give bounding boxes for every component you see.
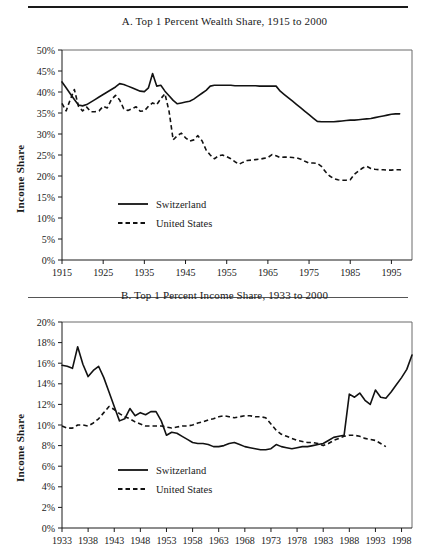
y-tick-label: 2% (42, 502, 55, 513)
x-tick-label: 1915 (52, 267, 72, 276)
y-tick-label: 0% (42, 523, 55, 534)
y-tick-label: 25% (37, 150, 55, 161)
panel-b-y-axis-label: Income Share (14, 414, 26, 482)
legend-label-united-states: United States (156, 218, 212, 229)
x-tick-label: 1973 (261, 535, 281, 546)
legend-label-switzerland: Switzerland (156, 199, 207, 210)
y-tick-label: 4% (42, 481, 55, 492)
panel-a: A. Top 1 Percent Wealth Share, 1915 to 2… (0, 14, 431, 284)
figure-page: A. Top 1 Percent Wealth Share, 1915 to 2… (0, 0, 431, 554)
x-tick-label: 1948 (130, 535, 150, 546)
x-tick-label: 1925 (93, 267, 113, 276)
x-tick-label: 1978 (287, 535, 307, 546)
y-tick-label: 50% (37, 45, 55, 56)
panel-b-chart: 0%2%4%6%8%10%12%14%16%18%20%193319381943… (0, 302, 431, 547)
y-tick-label: 18% (37, 337, 55, 348)
top-horizontal-rule (28, 6, 408, 8)
y-tick-label: 35% (37, 108, 55, 119)
x-tick-label: 1995 (381, 267, 401, 276)
panel-a-y-axis-label: Income Share (14, 145, 26, 213)
y-tick-label: 14% (37, 378, 55, 389)
x-tick-label: 1955 (217, 267, 237, 276)
x-tick-label: 1963 (209, 535, 229, 546)
panel-b: B. Top 1 Percent Income Share, 1933 to 2… (0, 288, 431, 554)
x-tick-label: 1993 (365, 535, 385, 546)
x-tick-label: 1983 (313, 535, 333, 546)
series-line-switzerland (62, 347, 412, 450)
series-line-switzerland (62, 74, 400, 122)
y-tick-label: 45% (37, 66, 55, 77)
panel-b-plot-wrap: Income Share 0%2%4%6%8%10%12%14%16%18%20… (0, 302, 431, 547)
x-tick-label: 1943 (104, 535, 124, 546)
panel-a-plot-wrap: Income Share 0%5%10%15%20%25%30%35%40%45… (0, 28, 431, 276)
y-tick-label: 10% (37, 420, 55, 431)
series-line-united-states (62, 89, 404, 180)
y-tick-label: 20% (37, 171, 55, 182)
y-tick-label: 0% (42, 255, 55, 266)
series-line-united-states (62, 406, 386, 446)
panel-a-chart: 0%5%10%15%20%25%30%35%40%45%50%191519251… (0, 28, 431, 276)
x-tick-label: 1958 (183, 535, 203, 546)
y-tick-label: 30% (37, 129, 55, 140)
x-tick-label: 1933 (52, 535, 72, 546)
y-tick-label: 15% (37, 192, 55, 203)
x-tick-label: 1998 (392, 535, 412, 546)
y-tick-label: 40% (37, 87, 55, 98)
x-tick-label: 1953 (156, 535, 176, 546)
x-tick-label: 1988 (339, 535, 359, 546)
x-tick-label: 1938 (78, 535, 98, 546)
x-tick-label: 1985 (340, 267, 360, 276)
legend-label-united-states: United States (156, 484, 212, 495)
y-tick-label: 20% (37, 317, 55, 328)
y-tick-label: 5% (42, 234, 55, 245)
panel-a-title: A. Top 1 Percent Wealth Share, 1915 to 2… (0, 14, 431, 28)
legend-label-switzerland: Switzerland (156, 465, 207, 476)
x-tick-label: 1975 (299, 267, 319, 276)
x-tick-label: 1965 (258, 267, 278, 276)
x-tick-label: 1945 (176, 267, 196, 276)
panel-b-title: B. Top 1 Percent Income Share, 1933 to 2… (0, 288, 431, 302)
y-tick-label: 8% (42, 440, 55, 451)
x-tick-label: 1935 (134, 267, 154, 276)
y-tick-label: 12% (37, 399, 55, 410)
y-tick-label: 10% (37, 213, 55, 224)
y-tick-label: 16% (37, 358, 55, 369)
x-tick-label: 1968 (235, 535, 255, 546)
y-tick-label: 6% (42, 461, 55, 472)
